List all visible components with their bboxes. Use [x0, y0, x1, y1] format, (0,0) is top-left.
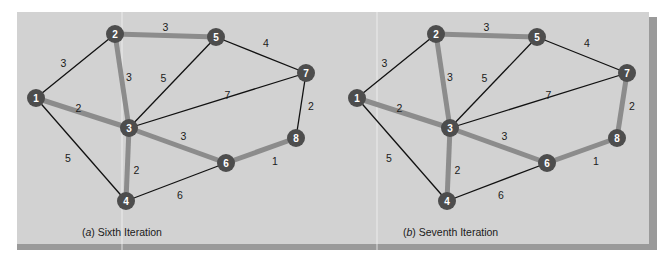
caption-text: Seventh Iteration [416, 226, 498, 238]
node-label: 3 [126, 123, 132, 134]
node-5: 5 [528, 28, 546, 46]
node-label: 5 [534, 32, 540, 43]
edge-weight-1-4: 5 [386, 152, 392, 164]
node-1: 1 [348, 89, 366, 107]
panel-shadow-bottom [17, 244, 657, 250]
node-label: 3 [447, 123, 453, 134]
caption-sixth-iteration: (a) Sixth Iteration [82, 226, 162, 238]
edge-weight-3-4: 2 [134, 164, 140, 176]
tree-edge-3-4 [447, 128, 450, 201]
tree-edge-2-5 [436, 34, 537, 37]
node-label: 4 [444, 196, 450, 207]
node-label: 2 [433, 29, 439, 40]
node-label: 1 [354, 93, 360, 104]
node-label: 6 [544, 158, 550, 169]
figure: 3253357326421 12345678 (a) Sixth Iterati… [0, 0, 667, 257]
edge-weight-1-2: 3 [382, 57, 388, 69]
panel-shadow-right [649, 17, 657, 249]
tree-edge-3-4 [126, 128, 129, 201]
node-label: 7 [624, 68, 630, 79]
node-5: 5 [207, 28, 225, 46]
edge-weight-7-8: 2 [308, 100, 314, 112]
edge-weight-2-3: 3 [447, 71, 453, 83]
node-label: 8 [293, 133, 299, 144]
edge-weight-4-6: 6 [177, 189, 183, 201]
edge-weight-7-8: 2 [629, 100, 635, 112]
edge-weight-3-5: 5 [161, 72, 167, 84]
node-3: 3 [120, 119, 138, 137]
edge-weight-3-4: 2 [455, 164, 461, 176]
node-7: 7 [618, 64, 636, 82]
edge-weight-1-3: 2 [397, 102, 403, 114]
edge-weight-3-6: 3 [181, 130, 187, 142]
edge-weight-2-5: 3 [484, 21, 490, 33]
caption-text: Sixth Iteration [95, 226, 162, 238]
edge-weight-5-7: 4 [584, 37, 590, 49]
edge-weight-2-5: 3 [163, 21, 169, 33]
node-label: 4 [123, 196, 129, 207]
node-label: 5 [213, 32, 219, 43]
node-2: 2 [427, 25, 445, 43]
edge-weight-3-7: 7 [225, 89, 231, 101]
edge-weight-3-6: 3 [502, 130, 508, 142]
node-label: 2 [112, 29, 118, 40]
node-6: 6 [217, 154, 235, 172]
node-4: 4 [117, 192, 135, 210]
node-3: 3 [441, 119, 459, 137]
edge-weight-3-5: 5 [482, 72, 488, 84]
caption-seventh-iteration: (b) Seventh Iteration [403, 226, 498, 238]
node-label: 1 [33, 93, 39, 104]
edge-weight-5-7: 4 [263, 37, 269, 49]
node-label: 8 [614, 133, 620, 144]
node-8: 8 [608, 129, 626, 147]
figure-background [17, 12, 649, 244]
edge-weight-6-8: 1 [593, 155, 599, 167]
edge-weight-1-3: 2 [76, 102, 82, 114]
node-4: 4 [438, 192, 456, 210]
node-2: 2 [106, 25, 124, 43]
caption-letter: b [407, 226, 413, 238]
node-label: 7 [303, 68, 309, 79]
node-8: 8 [287, 129, 305, 147]
edge-weight-2-3: 3 [126, 71, 132, 83]
tree-edge-2-5 [115, 34, 216, 37]
node-1: 1 [27, 89, 45, 107]
node-6: 6 [538, 154, 556, 172]
edge-weight-6-8: 1 [272, 155, 278, 167]
node-7: 7 [297, 64, 315, 82]
edge-weight-4-6: 6 [498, 189, 504, 201]
node-label: 6 [223, 158, 229, 169]
edge-weight-1-2: 3 [61, 57, 67, 69]
edge-weight-1-4: 5 [65, 152, 71, 164]
edge-weight-3-7: 7 [546, 89, 552, 101]
caption-letter: a [86, 226, 92, 238]
